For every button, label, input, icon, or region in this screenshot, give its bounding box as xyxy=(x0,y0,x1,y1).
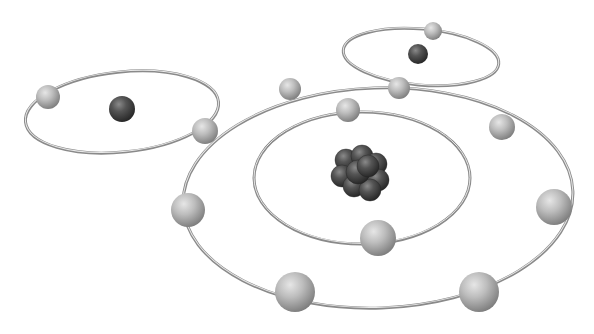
electron-sphere xyxy=(424,22,442,40)
orbit-rings xyxy=(21,22,576,315)
electron-sphere xyxy=(459,272,499,312)
electron-sphere xyxy=(279,78,301,100)
central-nucleus-cluster xyxy=(331,145,389,201)
atom-scene xyxy=(0,0,594,334)
electron-sphere xyxy=(536,189,572,225)
electron-sphere xyxy=(360,220,396,256)
electron-sphere xyxy=(489,114,515,140)
electron-sphere xyxy=(275,272,315,312)
top-right-atom-nucleus xyxy=(408,44,428,64)
electron-sphere xyxy=(171,193,205,227)
electron-sphere xyxy=(192,118,218,144)
electrons xyxy=(36,22,572,312)
nucleon-sphere xyxy=(357,155,379,177)
electron-sphere xyxy=(336,98,360,122)
electron-sphere xyxy=(36,85,60,109)
electron-sphere xyxy=(388,77,410,99)
left-atom-nucleus xyxy=(109,96,135,122)
